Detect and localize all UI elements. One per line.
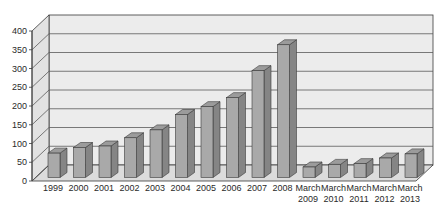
bar — [405, 149, 424, 178]
x-tick-label: 2013 — [400, 194, 420, 204]
bar-chart: 050100150200250300350400 199920002001200… — [0, 0, 448, 217]
bar-front — [227, 98, 239, 178]
x-tick-label: March — [295, 183, 320, 193]
y-tick-label: 0 — [22, 176, 27, 186]
bar-side — [264, 66, 271, 178]
bar — [380, 153, 399, 178]
x-tick-label: 2011 — [349, 194, 368, 204]
bar — [48, 148, 67, 177]
bar — [227, 93, 246, 178]
x-tick-label: 2001 — [94, 183, 114, 193]
x-tick-label: 2005 — [196, 183, 216, 193]
x-axis: 1999200020012002200320042005200620072008… — [43, 183, 423, 204]
y-tick-label: 400 — [12, 26, 27, 36]
bar-front — [278, 45, 290, 178]
bar-side — [239, 93, 246, 178]
x-tick-label: 2012 — [374, 194, 394, 204]
bar-front — [74, 148, 86, 178]
bar-side — [213, 102, 220, 178]
x-tick-label: 2000 — [68, 183, 88, 193]
y-axis: 050100150200250300350400 — [12, 26, 32, 186]
bar — [99, 141, 118, 178]
y-tick-label: 200 — [12, 101, 27, 111]
x-tick-label: March — [397, 183, 422, 193]
x-tick-label: March — [372, 183, 397, 193]
bar-front — [99, 146, 111, 178]
x-tick-label: 2004 — [170, 183, 190, 193]
bar — [150, 125, 169, 178]
x-tick-label: 2009 — [298, 194, 318, 204]
y-tick-label: 350 — [12, 45, 27, 55]
bar-front — [303, 167, 315, 178]
bar-side — [86, 143, 93, 178]
x-tick-label: 1999 — [43, 183, 63, 193]
bar-side — [137, 133, 144, 178]
x-tick-label: 2008 — [272, 183, 292, 193]
x-tick-label: March — [346, 183, 371, 193]
chart-canvas: 050100150200250300350400 199920002001200… — [0, 0, 448, 217]
bar — [278, 40, 297, 178]
bar-front — [150, 130, 162, 178]
bar-front — [354, 164, 366, 178]
x-tick-label: 2007 — [247, 183, 267, 193]
bar-side — [162, 125, 169, 178]
bar — [125, 133, 144, 178]
y-tick-label: 250 — [12, 82, 27, 92]
y-tick-label: 50 — [17, 157, 27, 167]
y-tick-label: 100 — [12, 139, 27, 149]
bar — [201, 102, 220, 178]
bar-front — [380, 158, 392, 178]
bar-side — [188, 110, 195, 178]
bar-front — [125, 138, 137, 178]
bar-front — [201, 107, 213, 178]
x-tick-label: 2010 — [323, 194, 343, 204]
bar-front — [176, 115, 188, 178]
bar-side — [111, 141, 118, 178]
bar — [74, 143, 93, 178]
bar — [176, 110, 195, 178]
bar — [252, 66, 271, 178]
x-tick-label: March — [321, 183, 346, 193]
x-tick-label: 2002 — [119, 183, 139, 193]
y-tick-label: 300 — [12, 64, 27, 74]
bar-front — [252, 71, 264, 178]
x-tick-label: 2006 — [221, 183, 241, 193]
bar — [354, 159, 373, 178]
x-tick-label: 2003 — [145, 183, 165, 193]
bar — [329, 159, 348, 177]
bar-front — [329, 164, 341, 177]
y-tick-label: 150 — [12, 120, 27, 130]
bar-front — [405, 154, 417, 178]
bar-side — [290, 40, 297, 178]
bar-front — [48, 153, 60, 177]
